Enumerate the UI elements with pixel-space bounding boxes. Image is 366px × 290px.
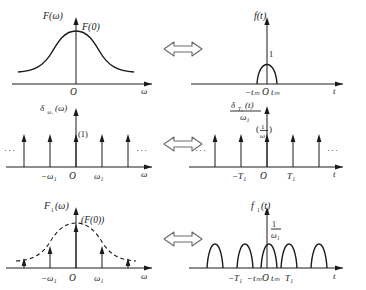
peak-value-label: 1 bbox=[269, 49, 273, 59]
ellipsis-right: ··· bbox=[136, 145, 148, 155]
y-axis-label-argument: (ω) bbox=[55, 103, 67, 113]
y-axis-label: f(t) bbox=[254, 10, 267, 22]
equivalence-arrow-row-2 bbox=[150, 95, 216, 192]
x-axis-arrowhead bbox=[335, 265, 343, 270]
double-headed-arrow-icon bbox=[164, 232, 202, 246]
ellipsis-left: ··· bbox=[4, 145, 16, 155]
impulse-group bbox=[22, 134, 131, 167]
equivalence-arrow-row-3 bbox=[150, 190, 216, 287]
y-axis-label-numerator-argument: (t) bbox=[245, 100, 254, 110]
y-axis-arrowhead bbox=[73, 207, 78, 215]
tick-label-omega1: ω₁ bbox=[94, 273, 103, 283]
x-axis-label: t bbox=[333, 169, 336, 179]
transform-pair-row-2: ··· ··· δ ω₁ (ω) (1) −ω₁ O ω₁ ω bbox=[0, 95, 366, 192]
amplitude-numerator: 1 bbox=[272, 220, 276, 229]
tick-label-minus-omega1: −ω₁ bbox=[41, 171, 57, 181]
x-axis-arrowhead bbox=[335, 164, 343, 169]
x-axis-label: ω bbox=[141, 169, 147, 179]
tick-label-minus-omega1: −ω₁ bbox=[41, 273, 57, 283]
y-axis-label: f bbox=[251, 200, 255, 211]
center-weight-denominator: ω₁ bbox=[260, 132, 267, 140]
y-axis-label-numerator: δ bbox=[231, 100, 236, 110]
x-axis-label: t bbox=[333, 271, 336, 281]
equivalence-arrow-row-1 bbox=[150, 0, 216, 97]
tick-label-omega1: ω₁ bbox=[94, 171, 103, 181]
y-axis-label: F(ω) bbox=[42, 10, 63, 22]
tick-label-T1: T₁ bbox=[285, 273, 293, 283]
y-axis-label: δ bbox=[40, 103, 45, 113]
double-headed-arrow-icon bbox=[164, 42, 202, 56]
tick-label-minus-tm: −tₘ bbox=[247, 273, 262, 283]
center-weight-numerator: 1 bbox=[261, 123, 265, 131]
tick-label-tm: tₘ bbox=[271, 273, 280, 283]
y-axis-arrowhead bbox=[73, 17, 78, 25]
origin-label: O bbox=[262, 273, 269, 283]
impulse-group bbox=[22, 224, 131, 268]
x-axis-arrowhead bbox=[335, 81, 343, 86]
peak-value-label: F(0) bbox=[81, 21, 100, 33]
fourier-transform-pair-figure: F(ω) F(0) O ω f(t) 1 −tₘ O bbox=[0, 0, 366, 290]
transform-pair-row-1: F(ω) F(0) O ω f(t) 1 −tₘ O bbox=[0, 0, 366, 97]
y-axis-label-subscript: ω₁ bbox=[48, 109, 54, 115]
y-axis-label-argument: (t) bbox=[261, 200, 271, 212]
x-axis-label: ω bbox=[141, 271, 147, 281]
ellipsis-right: ··· bbox=[327, 145, 339, 155]
double-headed-arrow-icon bbox=[164, 137, 202, 151]
center-impulse-weight-label: (1) bbox=[78, 129, 88, 139]
origin-label: O bbox=[69, 273, 76, 283]
center-weight-paren-open: ( bbox=[256, 124, 259, 134]
origin-label: O bbox=[69, 171, 76, 181]
y-axis-label-subscript: 1 bbox=[257, 207, 260, 213]
peak-value-label: (F(0)) bbox=[81, 215, 104, 226]
y-axis-label-subscript: 1 bbox=[51, 207, 54, 213]
y-axis-label-argument: (ω) bbox=[55, 200, 69, 212]
tick-label-minus-T1: −T₁ bbox=[228, 273, 242, 283]
y-axis-label: F bbox=[43, 200, 51, 211]
amplitude-denominator: ω₁ bbox=[271, 231, 280, 240]
y-axis-arrowhead bbox=[264, 106, 269, 114]
tick-label-minus-T1: −T₁ bbox=[232, 171, 246, 181]
transform-pair-row-3: F 1 (ω) (F(0)) −ω₁ O ω₁ ω bbox=[0, 190, 366, 287]
y-axis-label-denominator: ω₁ bbox=[240, 112, 249, 122]
y-axis-arrowhead bbox=[73, 108, 78, 116]
origin-label: O bbox=[260, 171, 267, 181]
center-weight-paren-close: ) bbox=[269, 124, 272, 134]
tick-label-T1: T₁ bbox=[287, 171, 295, 181]
